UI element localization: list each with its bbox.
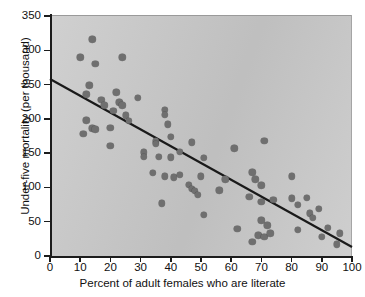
y-tick: [44, 84, 51, 86]
figure-scatter-plot: 050100150200250300350 010203040506070809…: [0, 0, 365, 297]
y-tick: [44, 118, 51, 120]
y-tick: [44, 15, 51, 17]
y-tick: [44, 152, 51, 154]
y-tick: [44, 187, 51, 189]
x-axis-title: Percent of adult females who are literat…: [0, 277, 365, 289]
y-tick: [44, 221, 51, 223]
trendline: [50, 16, 352, 256]
x-tick-label: 100: [332, 261, 365, 273]
y-tick: [44, 50, 51, 52]
y-axis-title: Under-five mortality (per thousand): [19, 1, 31, 251]
